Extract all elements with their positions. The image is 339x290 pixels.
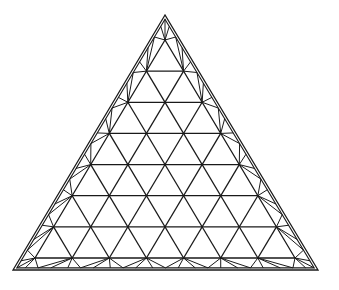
outer-truss-border — [13, 15, 318, 270]
diagram-canvas — [0, 0, 339, 290]
truss-bracing — [17, 19, 314, 268]
triangular-lattice-diagram — [0, 0, 339, 290]
inner-triangular-grid — [35, 40, 295, 258]
